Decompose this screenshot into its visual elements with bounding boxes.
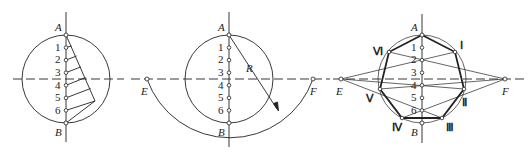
vertex-i [453, 50, 457, 54]
point-1 [227, 46, 231, 50]
label-1: 1 [218, 41, 224, 53]
point-4 [227, 84, 231, 88]
label-6: 6 [55, 104, 61, 116]
label-6: 6 [218, 104, 224, 116]
label-4: 4 [411, 79, 417, 91]
label-4: 4 [218, 79, 224, 91]
arc-ef [147, 79, 313, 138]
label-r: R [245, 62, 253, 74]
point-3 [227, 71, 231, 75]
radius-line [229, 35, 277, 109]
label-2: 2 [411, 53, 417, 65]
label-f: F [309, 85, 317, 97]
point-e [339, 77, 343, 81]
label-vertex-iv: Ⅳ [392, 121, 403, 133]
label-1: 1 [55, 41, 61, 53]
point-a [227, 33, 231, 37]
label-b: B [55, 126, 62, 138]
point-4 [64, 84, 68, 88]
hatch-line [66, 89, 91, 98]
point-6 [420, 109, 424, 113]
point-3 [64, 71, 68, 75]
point-f [311, 77, 315, 81]
point-1 [420, 46, 424, 50]
label-b: B [411, 126, 418, 138]
vertex-iii [440, 116, 444, 120]
label-e: E [335, 85, 343, 97]
label-3: 3 [218, 66, 224, 78]
point-6 [227, 109, 231, 113]
label-vertex-ii: Ⅱ [462, 96, 467, 108]
label-1: 1 [411, 41, 417, 53]
point-5 [227, 96, 231, 100]
point-5 [420, 96, 424, 100]
label-4: 4 [55, 79, 61, 91]
label-3: 3 [411, 66, 417, 78]
label-vertex-i: Ⅰ [460, 39, 463, 51]
point-e [145, 77, 149, 81]
point-b [64, 121, 68, 125]
label-b: B [218, 126, 225, 138]
label-a: A [410, 21, 418, 33]
point-2 [64, 58, 68, 62]
label-2: 2 [55, 53, 61, 65]
point-5 [64, 96, 68, 100]
vertex-vi [387, 50, 391, 54]
panel-2 [131, 12, 330, 147]
point-6 [64, 109, 68, 113]
label-3: 3 [55, 66, 61, 78]
point-4 [420, 84, 424, 88]
vertex-iv [400, 116, 404, 120]
vertex-v [378, 87, 382, 91]
point-a [64, 33, 68, 37]
point-1 [64, 46, 68, 50]
label-5: 5 [218, 91, 224, 103]
diagram-canvas: A B 1 2 3 4 5 6 A B E F R 1 2 3 4 5 6 [0, 0, 531, 153]
point-a [420, 33, 424, 37]
label-vertex-vi: Ⅵ [372, 45, 383, 57]
point-b [420, 121, 424, 125]
arrowhead [274, 102, 279, 111]
label-f: F [501, 85, 509, 97]
point-f [503, 77, 507, 81]
label-vertex-iii: Ⅲ [446, 121, 454, 133]
hatch-line [66, 67, 81, 73]
label-vertex-v: Ⅴ [365, 92, 374, 104]
label-a: A [217, 21, 225, 33]
panel-3 [333, 14, 524, 143]
label-6: 6 [411, 104, 417, 116]
label-2: 2 [218, 53, 224, 65]
point-2 [227, 58, 231, 62]
label-e: E [140, 85, 148, 97]
label-a: A [54, 21, 62, 33]
label-5: 5 [411, 91, 417, 103]
point-b [227, 121, 231, 125]
point-3 [420, 71, 424, 75]
vertex-ii [462, 87, 466, 91]
point-2 [420, 58, 424, 62]
hatch-line [66, 101, 95, 110]
panel-1 [13, 12, 124, 142]
label-5: 5 [55, 91, 61, 103]
